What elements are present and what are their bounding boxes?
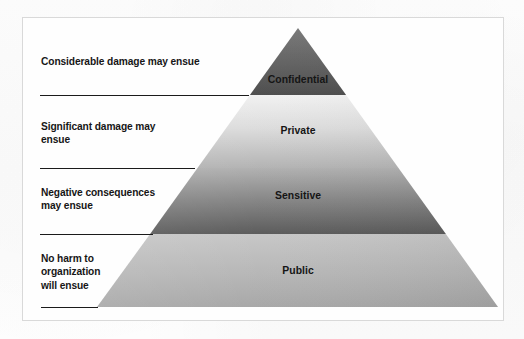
- tier-label-confidential: Confidential: [268, 74, 329, 85]
- callout-private: Significant damage may ensue: [41, 120, 211, 147]
- leader-line-private: [40, 168, 195, 169]
- tier-label-private: Private: [280, 125, 315, 136]
- leader-line-public: [41, 307, 98, 308]
- tier-label-public: Public: [282, 265, 313, 276]
- diagram-canvas: Considerable damage may ensue Significan…: [0, 0, 524, 339]
- tier-label-sensitive: Sensitive: [275, 190, 321, 201]
- callout-public: No harm to organization will ensue: [41, 252, 171, 292]
- callout-sensitive: Negative consequences may ensue: [41, 186, 211, 213]
- leader-line-confidential: [40, 95, 249, 96]
- callout-confidential: Considerable damage may ensue: [41, 55, 265, 68]
- leader-line-sensitive: [40, 234, 153, 235]
